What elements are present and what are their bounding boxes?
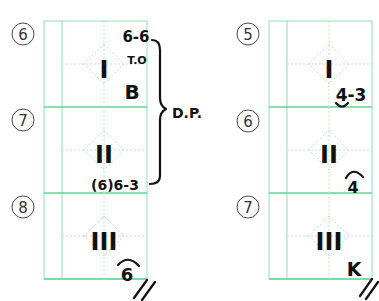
play-note: (6)6-3	[91, 177, 139, 193]
inning-mark: I	[100, 56, 109, 84]
double-play-bracket	[150, 40, 166, 184]
bracket-label: D.P.	[172, 105, 202, 121]
play-note: 4-3	[336, 85, 367, 105]
scorecard-diagram: 6 7 8 I 6-6 T.O B II (6)6-3 III 6 D.P.	[0, 0, 379, 301]
svg-text:6: 6	[18, 26, 28, 44]
svg-text:7: 7	[243, 199, 253, 217]
inning-mark: II	[95, 141, 113, 169]
inning-mark: II	[320, 141, 338, 169]
play-note: 6-6	[122, 28, 149, 46]
batter-number: 6	[237, 110, 259, 132]
right-scorecard: 5 6 7 I 4-3 II 4 III K	[237, 21, 378, 299]
batter-number: 5	[237, 23, 259, 45]
play-note: B	[124, 80, 139, 104]
svg-text:7: 7	[18, 112, 28, 130]
batter-number: 6	[12, 23, 34, 45]
end-mark-icon	[360, 279, 378, 299]
inning-mark: III	[316, 228, 343, 256]
batter-number: 8	[12, 196, 34, 218]
batter-number: 7	[12, 109, 34, 131]
inning-mark: I	[325, 56, 334, 84]
play-note: T.O	[127, 54, 146, 67]
svg-text:8: 8	[18, 199, 28, 217]
play-note: 6	[121, 264, 134, 285]
left-scorecard: 6 7 8 I 6-6 T.O B II (6)6-3 III 6 D.P.	[12, 21, 202, 300]
play-note: 4	[347, 178, 358, 197]
end-mark-icon	[134, 280, 155, 300]
play-note: K	[347, 258, 363, 280]
svg-text:6: 6	[243, 113, 253, 131]
svg-text:5: 5	[243, 26, 253, 44]
batter-number: 7	[237, 196, 259, 218]
inning-mark: III	[91, 228, 118, 256]
